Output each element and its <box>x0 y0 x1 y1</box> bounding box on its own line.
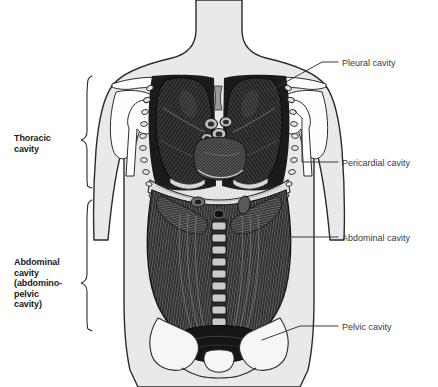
label-abdominal-cavity: Abdominal cavity <box>342 233 410 244</box>
brace-thoracic <box>81 76 92 188</box>
label-thoracic-cavity: Thoracic cavity <box>14 133 76 154</box>
label-pericardial-cavity: Pericardial cavity <box>342 158 410 169</box>
label-pelvic-cavity: Pelvic cavity <box>342 322 392 333</box>
brace-abdominal <box>81 200 92 331</box>
vertebral-column <box>211 210 227 334</box>
label-pleural-cavity: Pleural cavity <box>342 58 396 69</box>
label-abdominal-cavity-brace: Abdominal cavity (abdomino- pelvic cavit… <box>14 257 80 310</box>
